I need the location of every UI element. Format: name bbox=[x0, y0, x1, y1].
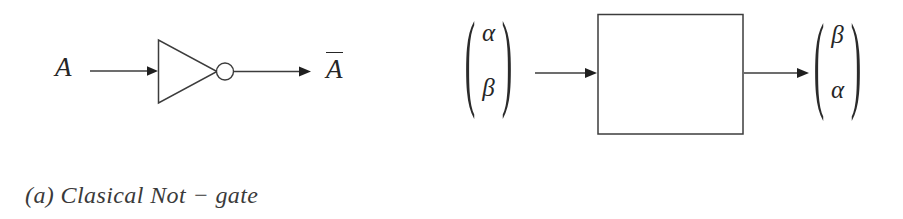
not-gate-triangle bbox=[159, 40, 218, 103]
open-paren-icon: ( bbox=[814, 8, 825, 116]
output-vector-entry-bottom: α bbox=[831, 77, 844, 102]
arrow-right-icon-input bbox=[585, 68, 597, 78]
close-paren-icon: ) bbox=[502, 6, 513, 114]
output-vector-entry-top: β bbox=[831, 22, 843, 47]
panel-classical-not-gate: A A (a) Clasical Not − gate bbox=[0, 0, 451, 219]
arrow-right-icon-output bbox=[299, 67, 311, 77]
output-label-overline-group: A bbox=[326, 52, 343, 83]
output-state-vector: ( β α ) bbox=[814, 22, 861, 102]
input-state-vector: ( α β ) bbox=[465, 20, 512, 100]
classical-output-label-text: A bbox=[326, 54, 343, 84]
close-paren-icon: ) bbox=[851, 8, 862, 116]
input-vector-entry-bottom: β bbox=[482, 75, 494, 100]
arrow-right-icon-input bbox=[147, 66, 158, 75]
classical-input-label: A bbox=[55, 54, 72, 81]
panel-quantum-x-gate: ( α β ) X ( β α ) (b) Quantum X − gate bbox=[451, 0, 903, 219]
caption-classical: (a) Clasical Not − gate bbox=[25, 182, 258, 209]
input-vector-entry-top: α bbox=[482, 20, 495, 45]
overline-bar bbox=[326, 52, 343, 53]
open-paren-icon: ( bbox=[465, 6, 476, 114]
inversion-bubble-icon bbox=[217, 63, 234, 80]
classical-output-label: A bbox=[326, 52, 343, 83]
input-vector-entries: α β bbox=[475, 20, 502, 100]
arrow-right-icon-output bbox=[797, 68, 809, 78]
x-gate-box bbox=[598, 15, 743, 135]
figure-canvas: A A (a) Clasical Not − gate ( α β bbox=[0, 0, 903, 219]
output-vector-entries: β α bbox=[824, 22, 851, 102]
